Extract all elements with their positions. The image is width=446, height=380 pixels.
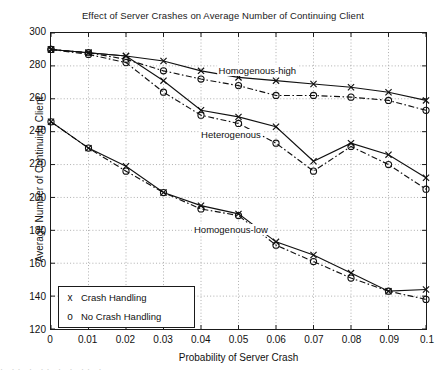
curve-annotation-label: Homogenous-low [193,224,269,235]
chart-legend: x Crash Handling o No Crash Handling [58,286,195,328]
data-point-marker-o [160,89,166,95]
x-tick-label: 0.09 [369,334,409,345]
series-layer [51,33,426,329]
y-axis-title: Average Number of Continuing Client [34,55,45,305]
legend-label-no-crash-handling: No Crash Handling [81,311,161,322]
chart-title: Effect of Server Crashes on Average Numb… [0,10,446,21]
x-tick-label: 0.08 [332,334,372,345]
x-tick-label: 0.03 [143,334,183,345]
data-point-marker-x [310,252,316,258]
scan-artifact-text: · ·· · ·· · · ·· · [0,364,446,376]
data-point-marker-x [423,175,429,181]
data-point-marker-x [160,78,166,84]
legend-marker-x-icon: x [59,293,81,303]
data-point-marker-o [273,140,279,146]
legend-label-crash-handling: Crash Handling [81,292,146,303]
data-point-marker-o [310,168,316,174]
x-tick-label: 0.05 [219,334,259,345]
curve-annotation-label: Heterogenous [200,129,262,140]
legend-marker-o-icon: o [59,312,81,322]
x-tick-label: 0 [30,334,70,345]
series-line [51,49,426,110]
x-tick-label: 0.06 [256,334,296,345]
legend-item-no-crash-handling: o No Crash Handling [59,308,196,325]
data-point-marker-x [310,158,316,164]
x-tick-label: 0.07 [294,334,334,345]
y-tick-label: 300 [14,26,46,37]
curve-annotation-label: Homogenous-high [218,65,298,76]
chart-figure: Effect of Server Crashes on Average Numb… [0,0,446,380]
x-tick-label: 0.04 [181,334,221,345]
x-tick-label: 0.1 [407,334,446,345]
legend-item-crash-handling: x Crash Handling [59,289,196,306]
series-line [51,122,426,291]
data-point-marker-x [385,152,391,158]
data-point-marker-o [385,161,391,167]
x-tick-label: 0.01 [68,334,108,345]
x-axis-title: Probability of Server Crash [50,352,427,363]
x-tick-label: 0.02 [105,334,145,345]
